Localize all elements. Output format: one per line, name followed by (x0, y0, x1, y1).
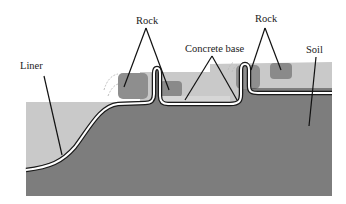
label-liner: Liner (20, 61, 43, 72)
label-rock-left: Rock (136, 16, 158, 27)
rock-right-2 (270, 63, 292, 79)
diagram-canvas: Rock Rock Concrete base Soil Liner (0, 0, 346, 204)
cross-section-illustration (0, 0, 346, 204)
label-concrete-base: Concrete base (185, 44, 244, 55)
rock-left-1 (118, 73, 148, 99)
label-rock-right: Rock (255, 14, 277, 25)
label-soil: Soil (306, 45, 323, 56)
rock-left-2 (160, 81, 182, 97)
concrete-base-left (160, 96, 230, 101)
